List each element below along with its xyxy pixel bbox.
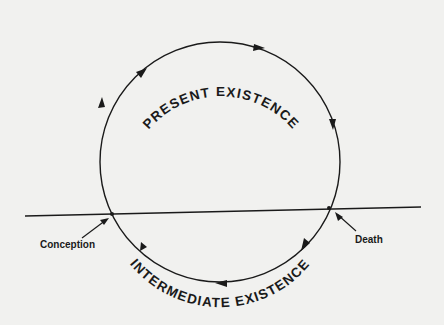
arrow-upper-left-icon [136, 68, 147, 78]
conception-point [110, 212, 114, 216]
pointer-arrows [82, 212, 356, 238]
life-cycle-diagram: PRESENT EXISTENCE INTERMEDIATE EXISTENCE… [0, 0, 444, 325]
death-label: Death [355, 234, 383, 245]
arrow-lower-left-icon [140, 242, 147, 251]
arrow-bottom-left-icon [215, 280, 227, 287]
arrow-up-left-icon [98, 97, 105, 108]
pointer-death-icon [335, 212, 343, 221]
death-point [327, 206, 331, 210]
conception-label: Conception [40, 239, 95, 250]
arrow-lower-right-icon [301, 238, 310, 251]
top-arc-label: PRESENT EXISTENCE [140, 84, 303, 132]
horizon-line [25, 207, 421, 216]
